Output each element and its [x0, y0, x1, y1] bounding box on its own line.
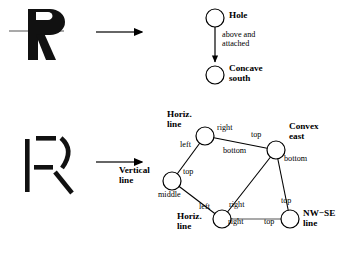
- node-horiz-line-top: [196, 127, 214, 145]
- node-concave-south: [206, 66, 224, 84]
- edge-endpoint-label-top-nwseline-a: top: [281, 197, 291, 206]
- edge-endpoint-label-bottom-convexeast-a: bottom: [223, 147, 246, 156]
- edge-endpoint-label-top-convexeast: top: [251, 131, 261, 140]
- edge-label-above-and-attached: above and attached: [222, 31, 255, 48]
- edge-endpoint-label-top-verticalline: top: [183, 168, 193, 177]
- node-label-horiz-line-bottom: Horiz. line: [177, 212, 202, 231]
- letter-r-solid-group: [9, 9, 65, 60]
- node-label-hole: Hole: [229, 11, 247, 21]
- letter-r-fragmented-group: [25, 136, 72, 193]
- node-hole: [206, 9, 224, 27]
- figure-canvas: Hole above and attached Concave south Ho…: [0, 0, 361, 257]
- edge-endpoint-label-right-horizbottom-b: right: [228, 218, 243, 227]
- edge-endpoint-label-middle-verticalline: middle: [158, 191, 181, 200]
- node-label-nw-se-line: NW−SE line: [303, 209, 335, 228]
- node-label-concave-south: Concave south: [229, 64, 263, 83]
- node-nw-se-line: [281, 210, 299, 228]
- node-vertical-line: [163, 172, 181, 190]
- edge-endpoint-label-right-horizbottom-a: right: [229, 201, 244, 210]
- node-label-convex-east: Convex east: [289, 122, 319, 141]
- edge-endpoint-label-left-horizbottom: left: [199, 203, 210, 212]
- edge-endpoint-label-right-horiztop: right: [217, 124, 232, 133]
- edge-endpoint-label-left-horiztop: left: [180, 141, 191, 150]
- node-label-horiz-line-top: Horiz. line: [167, 110, 192, 129]
- node-convex-east: [267, 141, 285, 159]
- edge-endpoint-label-bottom-convexeast-b: bottom: [284, 155, 307, 164]
- node-label-vertical-line: Vertical line: [119, 166, 150, 185]
- edge-endpoint-label-top-nwseline-b: top: [264, 218, 274, 227]
